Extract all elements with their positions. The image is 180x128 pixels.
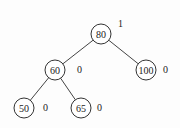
tree-node-80: 801 [91, 18, 123, 44]
node-value: 80 [96, 29, 106, 40]
edge-60-50 [30, 78, 48, 101]
balance-factor: 1 [118, 18, 123, 29]
nodes: 8016001000500650 [14, 18, 168, 118]
balance-factor: 0 [77, 64, 82, 75]
balance-factor: 0 [97, 102, 102, 113]
tree-node-100: 1000 [136, 60, 168, 80]
tree-diagram: 8016001000500650 [0, 0, 180, 128]
edge-60-65 [61, 78, 76, 99]
edge-80-100 [109, 40, 138, 64]
balance-factor: 0 [163, 64, 168, 75]
node-value: 50 [19, 103, 29, 114]
node-value: 100 [139, 65, 154, 76]
tree-node-50: 500 [14, 98, 48, 118]
tree-node-65: 650 [71, 98, 102, 118]
node-value: 60 [50, 65, 60, 76]
node-value: 65 [76, 103, 86, 114]
balance-factor: 0 [43, 102, 48, 113]
edge-80-60 [63, 40, 93, 64]
tree-svg: 8016001000500650 [0, 0, 180, 128]
